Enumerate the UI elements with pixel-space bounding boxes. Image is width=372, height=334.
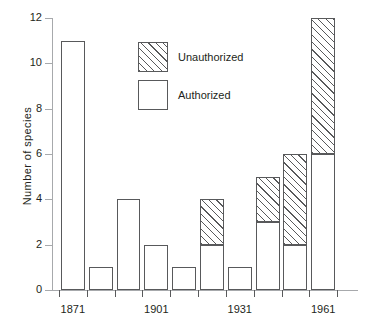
x-axis-tick-label: 1871 xyxy=(43,303,103,315)
x-axis-tick xyxy=(226,290,227,297)
chart-container: Number of species 024681012 187119011931… xyxy=(0,0,372,334)
x-axis-tick-label: 1901 xyxy=(126,303,186,315)
legend-label-authorized: Authorized xyxy=(178,89,231,101)
bar-segment-authorized xyxy=(311,154,335,290)
bar-segment-authorized xyxy=(117,199,141,290)
x-axis-tick xyxy=(142,290,143,297)
y-axis-tick-label: 4 xyxy=(22,193,42,204)
x-axis-tick xyxy=(59,290,60,297)
y-axis-tick xyxy=(45,245,52,246)
bar-segment-unauthorized xyxy=(200,199,224,244)
legend-swatch-unauthorized xyxy=(138,42,168,72)
bar-segment-authorized xyxy=(144,245,168,290)
legend-label-unauthorized: Unauthorized xyxy=(178,51,243,63)
x-axis-tick xyxy=(282,290,283,297)
x-axis-tick xyxy=(170,290,171,297)
y-axis-tick-label: 12 xyxy=(22,12,42,23)
bar-segment-authorized xyxy=(172,267,196,290)
x-axis-line xyxy=(52,290,358,291)
bar-segment-authorized xyxy=(283,245,307,290)
y-axis-tick xyxy=(45,154,52,155)
x-axis-tick xyxy=(254,290,255,297)
bar-segment-unauthorized xyxy=(256,177,280,222)
bar-segment-unauthorized xyxy=(283,154,307,245)
x-axis-tick-label: 1931 xyxy=(210,303,270,315)
y-axis-tick xyxy=(45,199,52,200)
bar-segment-authorized xyxy=(200,245,224,290)
x-axis-tick xyxy=(198,290,199,297)
y-axis-tick xyxy=(45,63,52,64)
x-axis-tick xyxy=(87,290,88,297)
y-axis-tick xyxy=(45,18,52,19)
legend-swatch-authorized xyxy=(138,80,168,110)
y-axis-tick-label: 8 xyxy=(22,103,42,114)
y-axis-tick xyxy=(45,290,52,291)
bar-segment-authorized xyxy=(61,41,85,290)
bar-segment-authorized xyxy=(89,267,113,290)
x-axis-tick xyxy=(309,290,310,297)
bar-segment-authorized xyxy=(228,267,252,290)
x-axis-tick-label: 1961 xyxy=(293,303,353,315)
x-axis-tick xyxy=(115,290,116,297)
y-axis-tick-label: 2 xyxy=(22,239,42,250)
y-axis-tick-label: 10 xyxy=(22,57,42,68)
bar-segment-authorized xyxy=(256,222,280,290)
y-axis-tick-label: 6 xyxy=(22,148,42,159)
bar-segment-unauthorized xyxy=(311,18,335,154)
y-axis-tick xyxy=(45,109,52,110)
x-axis-tick xyxy=(337,290,338,297)
y-axis-tick-label: 0 xyxy=(22,284,42,295)
